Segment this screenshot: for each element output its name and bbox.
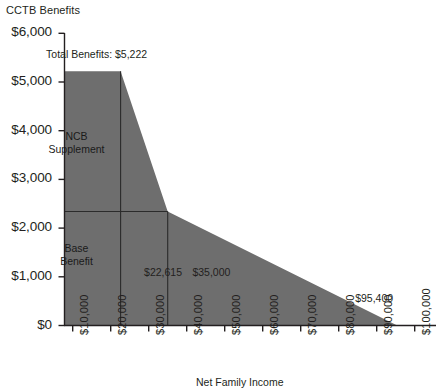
annotation-threshold-35000: $35,000: [192, 266, 230, 278]
x-tick-label: $100,000: [420, 288, 432, 335]
y-tick-label: $6,000: [0, 24, 52, 39]
x-tick-label: $30,000: [154, 295, 166, 335]
x-tick-label: $60,000: [268, 295, 280, 335]
y-tick-label: $0: [0, 317, 52, 332]
benefits-area-shape: [65, 71, 398, 325]
chart-container: CCTB Benefits $6,000$5,000$4,000$3,000$2…: [0, 0, 443, 392]
annotation-base-benefit: Base Benefit: [37, 242, 117, 268]
annotation-threshold-22615: $22,615: [144, 266, 182, 278]
annotation-threshold-95400: $95,400: [355, 292, 393, 304]
annotation-total-benefits: Total Benefits: $5,222: [46, 48, 147, 60]
y-tick-label: $5,000: [0, 73, 52, 88]
x-tick-label: $80,000: [344, 295, 356, 335]
x-tick-label: $40,000: [192, 295, 204, 335]
annotation-ncb-supplement: NCB Supplement: [37, 130, 117, 156]
y-tick-label: $1,000: [0, 268, 52, 283]
y-tick-label: $3,000: [0, 170, 52, 185]
x-tick-label: $10,000: [78, 295, 90, 335]
x-tick-label: $70,000: [306, 295, 318, 335]
y-tick-label: $2,000: [0, 219, 52, 234]
x-tick-label: $20,000: [116, 295, 128, 335]
y-axis-ticks: [59, 33, 65, 325]
x-tick-label: $50,000: [230, 295, 242, 335]
x-axis-title: Net Family Income: [196, 376, 284, 388]
